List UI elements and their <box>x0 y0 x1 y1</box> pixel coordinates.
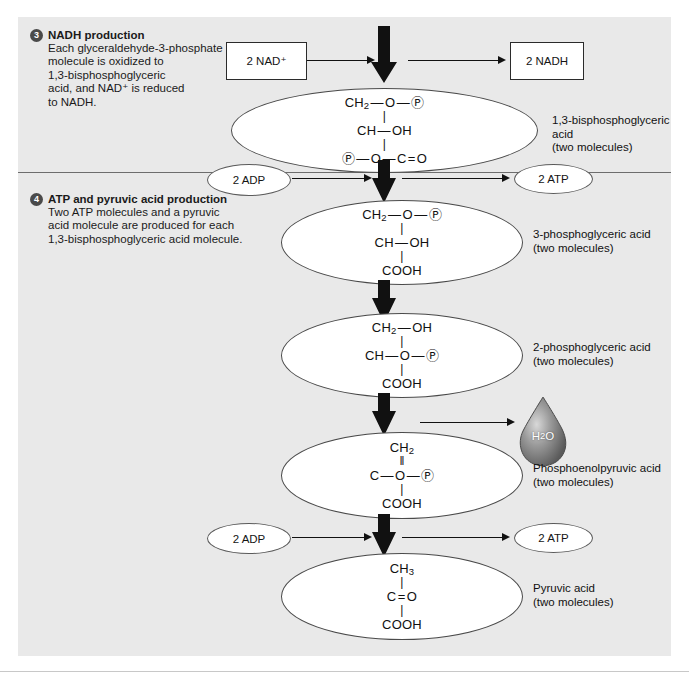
caption-3pg-count: (two molecules) <box>533 242 651 256</box>
caption-2pg-count: (two molecules) <box>533 355 651 369</box>
step-4-block: 4 ATP and pyruvic acid production Two AT… <box>30 192 280 246</box>
arrow-reaction-to-atp2 <box>402 533 510 542</box>
bpg-bond-2: | <box>383 139 386 150</box>
caption-bpg-count: (two molecules) <box>552 141 689 155</box>
step-4-line-2: acid molecule are produced for each <box>48 219 280 232</box>
pyr-bond-1: | <box>400 577 403 588</box>
molecule-ellipse-pyruvate: CH3 | C = O | COOH <box>281 553 523 640</box>
caption-pyruvate-name: Pyruvic acid <box>533 582 614 596</box>
step-3-block: 3 NADH production Each glyceraldehyde-3-… <box>30 28 255 109</box>
caption-pep-count: (two molecules) <box>533 476 661 490</box>
adp-pill-1: 2 ADP <box>207 164 291 196</box>
flow-arrow-pep-to-pyruvate <box>371 514 397 558</box>
step-3-line-3: 1,3-bisphosphoglyceric <box>48 69 255 82</box>
atp-pill-1: 2 ATP <box>514 164 593 194</box>
pyr-bond-2: | <box>400 605 403 616</box>
step-3-line-2: molecule is oxidized to <box>48 55 255 68</box>
pg2-bond-2: | <box>400 364 403 375</box>
nad-plus-box: 2 NAD⁺ <box>226 42 307 80</box>
caption-3pg-name: 3-phosphoglyceric acid <box>533 228 651 242</box>
arrow-reaction-to-nadh <box>408 56 506 65</box>
pep-row-3: COOH <box>382 495 422 512</box>
step-4-line-1: Two ATP molecules and a pyruvic <box>48 206 280 219</box>
pg2-bond-1: | <box>400 336 403 347</box>
caption-bpg-name: 1,3-bisphosphoglyceric acid <box>552 114 689 141</box>
arrow-adp1-to-reaction <box>292 174 372 183</box>
step-4-number-badge: 4 <box>30 193 43 206</box>
structure-pep: CH2 ‖ C — O — Ⓟ | COOH <box>282 433 522 518</box>
caption-2pg: 2-phosphoglyceric acid (two molecules) <box>533 341 651 368</box>
pg3-row-3: COOH <box>382 262 422 279</box>
structure-2pg: CH2 — OH | CH — O — Ⓟ | COOH <box>282 314 522 397</box>
pg3-bond-1: | <box>400 223 403 234</box>
caption-pyruvate-count: (two molecules) <box>533 596 614 610</box>
step-3-number-badge: 3 <box>30 29 43 42</box>
page-bottom-rule <box>0 671 689 672</box>
atp-pill-2: 2 ATP <box>514 523 593 553</box>
glycolysis-figure: 3 NADH production Each glyceraldehyde-3-… <box>0 0 689 679</box>
step-3-line-1: Each glyceraldehyde-3-phosphate <box>48 42 255 55</box>
pep-bond-1: ‖ <box>399 456 404 467</box>
caption-pep: Phosphoenolpyruvic acid (two molecules) <box>533 462 661 489</box>
flow-arrow-into-bpg <box>370 26 398 84</box>
structure-pyruvate: CH3 | C = O | COOH <box>282 554 522 639</box>
caption-pyruvate: Pyruvic acid (two molecules) <box>533 582 614 609</box>
flow-arrow-bpg-to-3pg <box>371 160 397 204</box>
caption-bpg: 1,3-bisphosphoglyceric acid (two molecul… <box>552 114 689 155</box>
pg3-bond-2: | <box>400 251 403 262</box>
nadh-box: 2 NADH <box>510 42 584 80</box>
caption-3pg: 3-phosphoglyceric acid (two molecules) <box>533 228 651 255</box>
molecule-ellipse-2pg: CH2 — OH | CH — O — Ⓟ | COOH <box>281 313 523 398</box>
adp-pill-2: 2 ADP <box>207 523 291 554</box>
molecule-ellipse-3pg: CH2 — O — Ⓟ | CH — OH | COOH <box>281 200 523 285</box>
step-4-line-3: 1,3-bisphosphoglyceric acid molecule. <box>48 233 280 246</box>
molecule-ellipse-pep: CH2 ‖ C — O — Ⓟ | COOH <box>281 432 523 519</box>
arrow-reaction-to-atp1 <box>402 174 510 183</box>
step-3-line-4: acid, and NAD⁺ is reduced <box>48 82 255 95</box>
pg2-row-3: COOH <box>382 375 422 392</box>
step-3-heading: 3 NADH production <box>30 28 255 42</box>
flow-arrow-2pg-to-pep <box>371 393 397 437</box>
step-3-title: NADH production <box>48 28 144 42</box>
bpg-bond-1: | <box>383 111 386 122</box>
pyr-row-3: COOH <box>382 616 422 633</box>
caption-pep-name: Phosphoenolpyruvic acid <box>533 462 661 476</box>
arrow-nad-to-reaction <box>307 56 375 65</box>
step-3-line-5: to NADH. <box>48 96 255 109</box>
step-3-body: Each glyceraldehyde-3-phosphate molecule… <box>48 42 255 109</box>
step-4-title: ATP and pyruvic acid production <box>48 192 227 206</box>
structure-3pg: CH2 — O — Ⓟ | CH — OH | COOH <box>282 201 522 284</box>
step-4-body: Two ATP molecules and a pyruvic acid mol… <box>48 206 280 246</box>
arrow-adp2-to-reaction <box>292 533 372 542</box>
caption-2pg-name: 2-phosphoglyceric acid <box>533 341 651 355</box>
pep-bond-2: | <box>400 484 403 495</box>
arrow-to-water <box>420 418 515 427</box>
